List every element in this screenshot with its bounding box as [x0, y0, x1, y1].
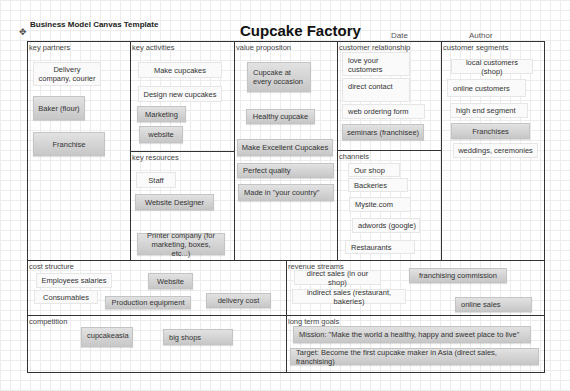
sticky-note[interactable]: adwords (google) [352, 218, 420, 233]
sticky-note[interactable]: Mission: "Make the world a healthy, happ… [293, 326, 531, 343]
sticky-note[interactable]: Website [148, 273, 193, 289]
sticky-note[interactable]: Franchises [451, 123, 530, 139]
sticky-note[interactable]: Printer company (for marketing, boxes, e… [137, 233, 225, 255]
page-title: Cupcake Factory [240, 22, 361, 39]
section-label-key-activities: key activities [132, 43, 175, 52]
divider [27, 315, 545, 316]
section-label-customer-relationship: customer relationship [339, 43, 410, 52]
section-label-channels: channels [339, 152, 369, 161]
divider [337, 150, 441, 151]
sticky-note[interactable]: Make Excellent Cupcakes [237, 139, 333, 156]
sticky-note[interactable]: Restaurants [345, 240, 415, 254]
section-label-customer-segments: customer segments [443, 43, 508, 52]
sticky-note[interactable]: high end segment [450, 103, 528, 118]
sticky-note[interactable]: Mysite.com [349, 197, 411, 212]
section-label-value-proposition: value propositon [236, 43, 291, 52]
sticky-note[interactable]: Cupcake at every occasion [247, 62, 311, 92]
sticky-note[interactable]: big shops [163, 329, 233, 345]
move-handle-icon[interactable]: ✥ [19, 28, 28, 37]
sticky-note[interactable]: local customers (shop) [451, 59, 533, 74]
date-label: Date [391, 31, 408, 40]
sticky-note[interactable]: seminars (franchisee) [342, 124, 424, 140]
template-label: Business Model Canvas Template [30, 20, 158, 29]
sticky-note[interactable]: indirect sales (restaurant, bakeries) [292, 289, 406, 304]
sticky-note[interactable]: Website Designer [135, 194, 214, 210]
divider [441, 41, 442, 260]
sticky-note[interactable]: Marketing [137, 106, 186, 122]
sticky-note[interactable]: Production equipment [105, 296, 191, 309]
sticky-note[interactable]: cupcakeasia [81, 327, 133, 347]
sticky-note[interactable]: Employees salaries [36, 273, 112, 288]
divider [234, 41, 235, 260]
sticky-note[interactable]: Baker (flour) [33, 96, 85, 120]
divider [286, 260, 287, 373]
divider [130, 151, 234, 152]
sticky-note[interactable]: Design new cupcakes [138, 86, 222, 102]
sticky-note[interactable]: Consumables [34, 290, 98, 304]
sticky-note[interactable]: online sales [455, 297, 532, 312]
sticky-note[interactable]: Healthy cupcake [246, 109, 315, 124]
section-label-key-partners: key partners [29, 43, 70, 52]
sticky-note[interactable]: web ordering form [342, 104, 425, 119]
sticky-note[interactable]: Our shop [348, 163, 400, 177]
sticky-note[interactable]: love your customers [342, 52, 410, 76]
sticky-note[interactable]: Franchise [33, 132, 105, 156]
section-label-cost-structure: cost structure [29, 262, 74, 271]
section-label-competition: competition [29, 317, 67, 326]
sticky-note[interactable]: Perfect quality [237, 163, 334, 178]
sticky-note[interactable]: delivery cost [206, 293, 271, 308]
section-label-long-term-goals: long term goals [288, 317, 339, 326]
author-label: Author [469, 31, 493, 40]
sticky-note[interactable]: Delivery company, courier [33, 62, 101, 86]
section-label-key-resources: key resources [132, 153, 179, 162]
sticky-note[interactable]: Target: Become the first cupcake maker i… [290, 348, 539, 365]
sticky-note[interactable]: Backeries [348, 178, 408, 192]
sticky-note[interactable]: website [139, 126, 183, 143]
sticky-note[interactable]: online customers [447, 79, 526, 97]
sticky-note[interactable]: direct contact [342, 78, 410, 102]
sticky-note[interactable]: Make cupcakes [138, 62, 222, 78]
sticky-note[interactable]: weddings, ceremonies [453, 143, 538, 158]
sticky-note[interactable]: direct sales (in our shop) [294, 270, 381, 285]
sticky-note[interactable]: franchising commission [409, 268, 507, 283]
sticky-note[interactable]: Staff [136, 172, 176, 188]
sticky-note[interactable]: Made in "your country" [238, 184, 334, 201]
